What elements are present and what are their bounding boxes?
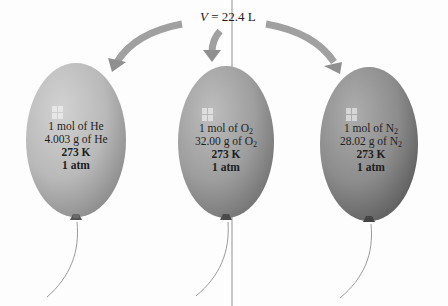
arrow-middle-icon bbox=[203, 31, 221, 62]
balloon-oxygen bbox=[172, 66, 282, 306]
balloon-helium bbox=[20, 62, 130, 306]
balloon-oxygen-label: 1 mol of O2 32.00 g of O2 273 K 1 atm bbox=[172, 122, 280, 174]
balloon-nitrogen-label: 1 mol of N2 28.02 g of N2 273 K 1 atm bbox=[316, 122, 426, 174]
balloon-helium-label: 1 mol of He 4.003 g of He 273 K 1 atm bbox=[20, 120, 132, 172]
balloon-nitrogen bbox=[316, 66, 426, 306]
